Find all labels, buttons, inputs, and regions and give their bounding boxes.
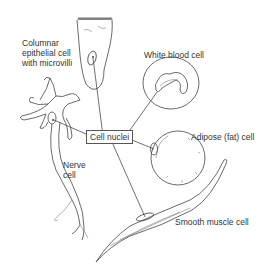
label-cell-nuclei: Cell nuclei	[86, 130, 133, 144]
label-columnar-epithelial-cell: Columnar epithelial cell with microvilli	[22, 38, 72, 68]
label-adipose-cell: Adipose (fat) cell	[191, 132, 254, 142]
white-blood-cell	[143, 57, 199, 109]
nerve-cell	[20, 77, 88, 240]
label-smooth-muscle-cell: Smooth muscle cell	[175, 217, 249, 227]
columnar-epithelial-cell	[77, 18, 112, 90]
label-white-blood-cell: White blood cell	[144, 50, 204, 60]
label-nerve-cell: Nerve cell	[63, 160, 86, 180]
smooth-muscle-cell	[96, 160, 227, 263]
cell-types-diagram: Columnar epithelial cell with microvilli…	[0, 0, 266, 272]
